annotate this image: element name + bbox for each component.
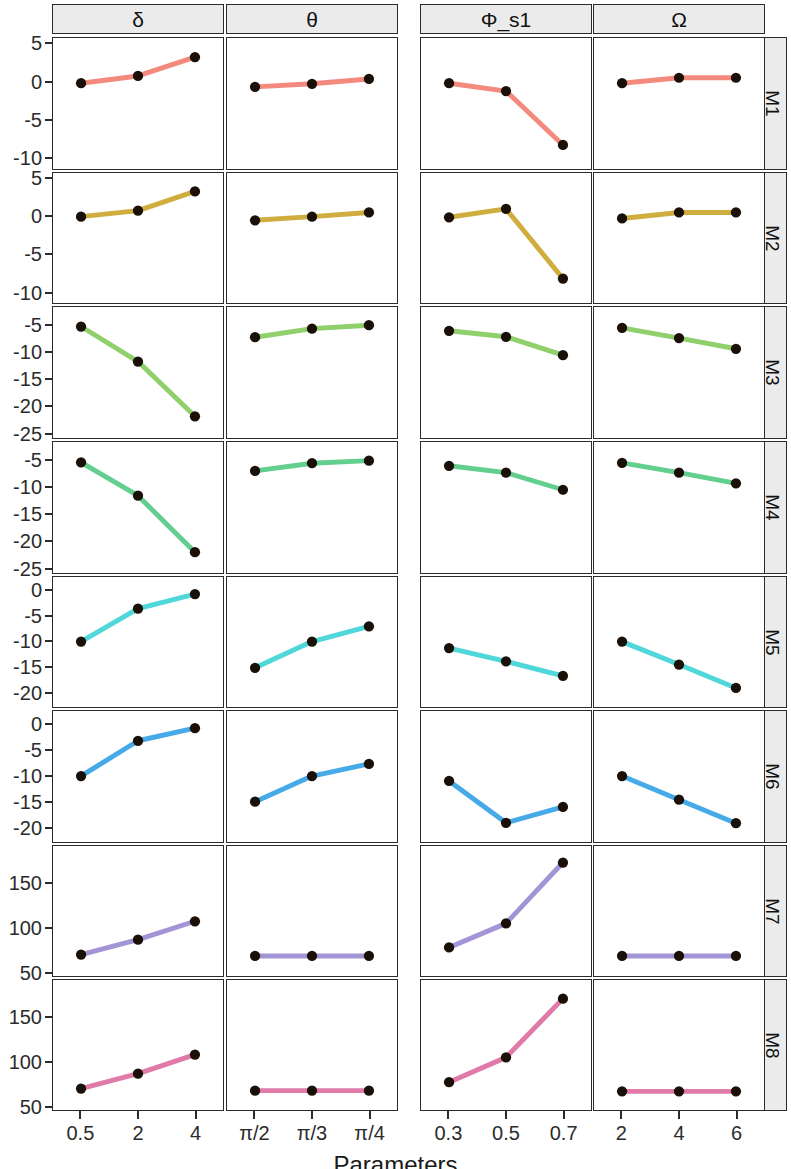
panel-M2-2 [420,172,592,304]
y-tick-mark [45,801,52,803]
y-tick-mark [45,486,52,488]
series-line [255,764,369,802]
data-point [731,73,741,83]
data-point [190,52,200,62]
y-tick-mark [45,589,52,591]
x-tick-mark [311,1111,313,1119]
data-point [364,621,374,631]
y-tick-label: 0 [31,72,42,92]
x-tick-mark [79,1111,81,1119]
panel-M6-2 [420,710,592,843]
y-tick-mark [45,405,52,407]
data-point [444,776,454,786]
panel-M7-3 [593,845,765,977]
column-header-2: θ [226,4,398,34]
row-header-label: M4 [763,494,782,520]
y-tick-label: 150 [9,873,42,893]
column-header-3: Φ_s1 [420,4,592,34]
y-tick-label: 150 [9,1007,42,1027]
data-point [76,771,86,781]
series-line [449,781,563,823]
data-point [364,74,374,84]
panel-M1-0 [52,37,224,170]
y-tick-label: -25 [13,424,42,444]
y-tick-mark [45,42,52,44]
data-point [364,759,374,769]
panel-M8-1 [226,979,398,1111]
data-point [444,1077,454,1087]
x-tick-mark [505,1111,507,1119]
y-tick-label: -10 [13,766,42,786]
data-point [364,1086,374,1096]
data-point [674,1086,684,1096]
panel-M4-1 [226,441,398,574]
y-tick-label: -5 [24,110,42,130]
data-point [190,186,200,196]
y-tick-label: -5 [24,740,42,760]
data-point [250,797,260,807]
y-tick-mark [45,540,52,542]
data-point [250,215,260,225]
column-header-label: Ω [671,9,687,30]
data-point [558,994,568,1004]
data-point [364,456,374,466]
data-point [190,547,200,557]
data-point [558,671,568,681]
y-tick-mark [45,927,52,929]
y-tick-mark [45,433,52,435]
panel-M8-2 [420,979,592,1111]
y-tick-mark [45,615,52,617]
y-tick-mark [45,513,52,515]
y-tick-mark [45,1061,52,1063]
data-point [133,71,143,81]
y-tick-label: 50 [20,1097,42,1117]
y-tick-mark [45,157,52,159]
data-point [76,457,86,467]
x-tick-mark [253,1111,255,1119]
column-header-label: Φ_s1 [481,9,532,30]
data-point [250,663,260,673]
x-tick-mark [369,1111,371,1119]
y-tick-label: -20 [13,531,42,551]
data-point [617,951,627,961]
panel-M5-1 [226,576,398,708]
y-tick-label: 5 [31,33,42,53]
data-point [501,468,511,478]
x-tick-label: 6 [697,1123,777,1143]
data-point [617,458,627,468]
data-point [501,1052,511,1062]
series-line [81,728,195,776]
data-point [250,1086,260,1096]
y-tick-mark [45,351,52,353]
data-point [190,1049,200,1059]
data-point [76,321,86,331]
y-tick-mark [45,640,52,642]
y-tick-mark [45,692,52,694]
data-point [617,636,627,646]
series-line [81,327,195,417]
y-tick-label: -15 [13,657,42,677]
data-point [558,485,568,495]
panel-M5-2 [420,576,592,708]
data-point [558,140,568,150]
data-point [501,656,511,666]
data-point [674,659,684,669]
data-point [190,723,200,733]
series-line [255,626,369,668]
panel-M1-2 [420,37,592,170]
data-point [307,79,317,89]
data-point [674,73,684,83]
y-tick-label: 0 [31,580,42,600]
data-point [674,795,684,805]
data-point [558,802,568,812]
data-point [558,857,568,867]
y-tick-label: -10 [13,342,42,362]
y-tick-label: -5 [24,606,42,626]
y-tick-label: -15 [13,792,42,812]
data-point [674,468,684,478]
data-point [133,491,143,501]
panel-M3-2 [420,306,592,439]
panel-M4-2 [420,441,592,574]
data-point [307,951,317,961]
y-tick-mark [45,568,52,570]
